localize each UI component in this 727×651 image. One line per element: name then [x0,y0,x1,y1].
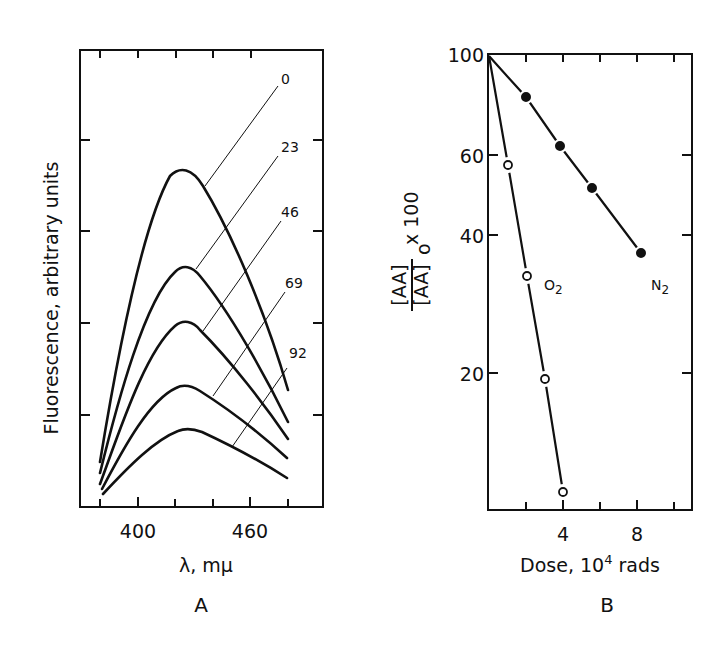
panel-a-x-axis-label: λ, mμ [179,554,233,576]
series-n2 [489,56,647,259]
panel-a-curves [100,170,288,494]
ylabel-denominator: [AA] [410,264,432,305]
curve-label-92: 92 [289,345,307,361]
curve-label-46: 46 [281,204,299,220]
panel-b-y-tick-40: 40 [460,225,484,247]
panel-a-label: A [194,593,208,617]
series-label-n2: N2 [651,277,669,297]
panel-a: 0 23 46 69 92 400 460 λ, mμ Fluorescence… [40,50,323,617]
panel-a-bottom-ticks [100,497,288,507]
series-n2-line [489,56,641,253]
figure: 0 23 46 69 92 400 460 λ, mμ Fluorescence… [0,0,727,651]
panel-a-x-tick-460: 460 [232,520,268,542]
curve-label-23: 23 [281,139,299,155]
panel-b-top-ticks [526,54,674,62]
panel-a-top-ticks [100,50,251,58]
curve-dose-46 [100,322,288,484]
n2-point [586,182,598,194]
ylabel-numerator: [AA] [388,264,410,305]
ylabel-multiplier: x 100 [400,191,422,245]
panel-b-label: B [600,593,614,617]
n2-point [635,247,647,259]
curve-label-69: 69 [285,275,303,291]
series-label-o2: O2 [544,277,563,297]
o2-point [541,375,549,383]
o2-point [523,272,531,280]
panel-b-bottom-ticks [526,500,674,510]
panel-b-y-axis-label: [AA] [AA] o x 100 [388,191,434,311]
panel-b-y-tick-20: 20 [460,363,484,385]
curve-label-0: 0 [281,71,290,87]
panel-b-x-tick-8: 8 [631,523,643,545]
panel-a-x-tick-400: 400 [120,520,156,542]
panel-b-y-tick-100: 100 [448,44,484,66]
n2-point [554,140,566,152]
o2-point [559,488,567,496]
n2-point [520,91,532,103]
panel-b: 100 60 40 20 4 8 O2 N2 [388,44,692,617]
panel-b-y-tick-60: 60 [460,145,484,167]
panel-b-x-tick-4: 4 [557,523,569,545]
panel-b-x-axis-label: Dose, 104 rads [520,552,660,576]
o2-point [504,161,512,169]
series-o2 [489,56,569,498]
curve-dose-0 [100,170,288,462]
panel-a-y-axis-label: Fluorescence, arbitrary units [40,162,62,435]
